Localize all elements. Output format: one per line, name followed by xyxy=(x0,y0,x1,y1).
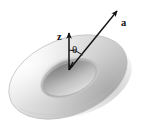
a-vector-label: a xyxy=(121,17,127,28)
z-axis-label: z xyxy=(57,31,62,42)
torus-vector-figure: z a θ xyxy=(0,0,141,137)
theta-angle-label: θ xyxy=(72,43,77,55)
figure-canvas: z a θ xyxy=(0,0,141,137)
